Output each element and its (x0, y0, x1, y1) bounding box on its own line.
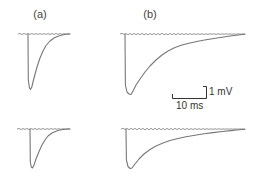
figure: (a) (b) 1 mV 10 ms (0, 0, 256, 189)
scale-bar-time (173, 94, 207, 99)
trace-a-top (18, 34, 70, 90)
scale-bar-time-label: 10 ms (176, 101, 203, 111)
trace-a-bottom (17, 129, 70, 169)
trace-a-top-response (28, 34, 70, 90)
trace-b-top-noise (120, 33, 245, 35)
trace-b-bottom (121, 128, 245, 168)
scale-bar-voltage-label: 1 mV (209, 87, 232, 97)
trace-b-bottom-noise (121, 128, 245, 130)
scale-bar-voltage (203, 87, 207, 99)
trace-b-bottom-response (126, 129, 245, 169)
trace-a-bottom-response (30, 129, 70, 168)
scale-bar (173, 87, 207, 99)
trace-a-top-noise (18, 34, 70, 35)
